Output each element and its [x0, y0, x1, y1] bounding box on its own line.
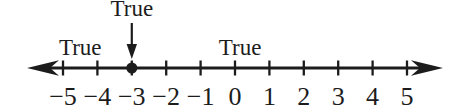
tick-label: −1 — [187, 82, 215, 111]
down-arrow-head-icon — [127, 44, 137, 59]
tick-label: −2 — [152, 82, 180, 111]
annotation-label-upper: True — [110, 0, 153, 21]
tick-label: 0 — [229, 82, 242, 111]
tick-label: −4 — [84, 82, 112, 111]
tick-label: 4 — [366, 82, 379, 111]
number-line-svg: −5−4−3−2−1012345TrueTrueTrue — [0, 0, 457, 112]
tick-label: 5 — [401, 82, 414, 111]
number-line-figure: −5−4−3−2−1012345TrueTrueTrue — [0, 0, 457, 112]
tick-label: 1 — [263, 82, 276, 111]
tick-label: 2 — [297, 82, 310, 111]
plotted-point — [126, 63, 137, 74]
annotation-label: True — [59, 35, 102, 60]
annotation-label: True — [219, 35, 262, 60]
tick-label: 3 — [332, 82, 345, 111]
tick-label: −5 — [49, 82, 77, 111]
tick-label: −3 — [118, 82, 146, 111]
